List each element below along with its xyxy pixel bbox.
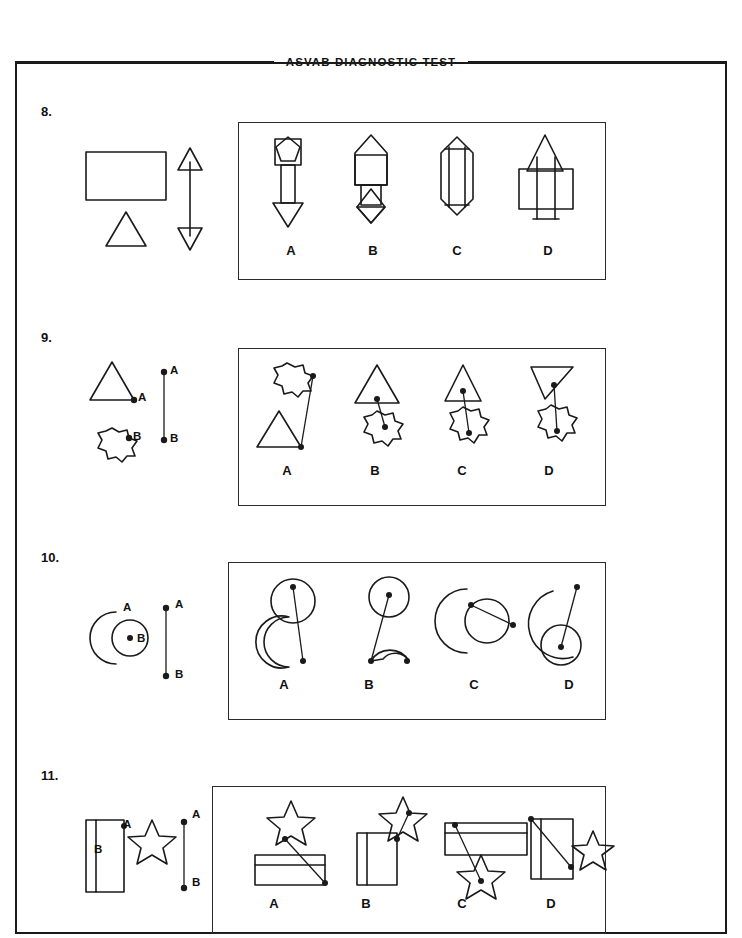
question-11-prompt-label-a: A [123, 818, 131, 830]
question-8-choice-a[interactable]: A [281, 243, 301, 258]
question-11-number: 11. [41, 768, 58, 783]
question-10-answer-box[interactable] [228, 562, 606, 720]
question-9-prompt-label-b: B [133, 430, 141, 442]
question-10-choice-a[interactable]: A [274, 677, 294, 692]
question-11-prompt [80, 810, 200, 906]
question-10-prompt [82, 596, 192, 696]
question-11-segment-label-a: A [192, 808, 200, 820]
question-8-choice-c[interactable]: C [447, 243, 467, 258]
question-11-choice-c[interactable]: C [452, 896, 472, 911]
question-9-choice-a[interactable]: A [277, 463, 297, 478]
question-8-choice-b[interactable]: B [363, 243, 383, 258]
question-9-choice-c[interactable]: C [452, 463, 472, 478]
question-9-choice-b[interactable]: B [365, 463, 385, 478]
question-10-segment-label-b: B [175, 668, 183, 680]
question-8-prompt [78, 140, 218, 250]
question-9-segment-label-b: B [170, 432, 178, 444]
question-11-choice-d[interactable]: D [541, 896, 561, 911]
question-11-segment-label-b: B [192, 876, 200, 888]
question-10-prompt-label-a: A [123, 601, 131, 613]
question-9-answer-box[interactable] [238, 348, 606, 506]
question-8-number: 8. [41, 104, 52, 119]
question-11-answer-box[interactable] [212, 786, 606, 934]
question-11-choice-b[interactable]: B [356, 896, 376, 911]
question-10-choice-b[interactable]: B [359, 677, 379, 692]
question-10-number: 10. [41, 550, 59, 565]
question-9-choice-d[interactable]: D [539, 463, 559, 478]
question-11-choice-a[interactable]: A [264, 896, 284, 911]
question-9-prompt-label-a: A [138, 391, 146, 403]
question-9-segment-label-a: A [170, 364, 178, 376]
question-10-prompt-label-b: B [137, 632, 145, 644]
question-8-choice-d[interactable]: D [538, 243, 558, 258]
question-11-prompt-label-b: B [94, 843, 102, 855]
question-10-choice-c[interactable]: C [464, 677, 484, 692]
question-10-segment-label-a: A [175, 598, 183, 610]
question-10-choice-d[interactable]: D [559, 677, 579, 692]
question-9-number: 9. [41, 330, 52, 345]
